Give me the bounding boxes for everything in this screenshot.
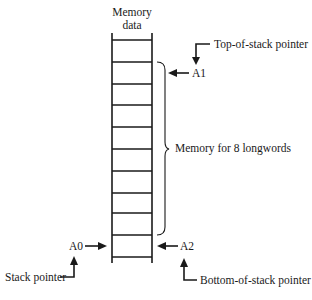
- column-header-line1: Memory: [112, 6, 152, 19]
- stack-pointer-label: Stack pointer: [5, 271, 66, 284]
- bottom-of-stack-label: Bottom-of-stack pointer: [200, 274, 311, 287]
- arrow-up-icon: [70, 256, 78, 265]
- brace-label: Memory for 8 longwords: [175, 142, 291, 155]
- elbow-connector: [184, 266, 197, 280]
- memory-column: [112, 33, 152, 263]
- top-of-stack-pointer: Top-of-stack pointer: [192, 38, 308, 65]
- column-header-line2: data: [122, 19, 141, 31]
- memory-brace: Memory for 8 longwords: [157, 62, 291, 235]
- a2-pointer: A2: [157, 240, 194, 252]
- stack-pointer: Stack pointer: [5, 256, 78, 284]
- memory-stack-diagram: Memory data Top-of-stack pointer A1 Memo…: [0, 0, 312, 300]
- arrow-up-icon: [180, 258, 188, 267]
- a1-label: A1: [192, 67, 206, 79]
- a0-pointer: A0: [69, 240, 107, 252]
- arrow-left-icon: [168, 69, 177, 77]
- a0-label: A0: [69, 240, 83, 252]
- arrow-down-icon: [192, 57, 200, 65]
- right-curly-brace: [157, 62, 169, 235]
- elbow-connector: [196, 44, 210, 58]
- a2-label: A2: [180, 240, 194, 252]
- top-of-stack-label: Top-of-stack pointer: [214, 38, 308, 51]
- arrow-left-icon: [157, 242, 166, 250]
- bottom-of-stack-pointer: Bottom-of-stack pointer: [180, 258, 311, 287]
- arrow-right-icon: [98, 242, 107, 250]
- a1-pointer: A1: [168, 67, 206, 79]
